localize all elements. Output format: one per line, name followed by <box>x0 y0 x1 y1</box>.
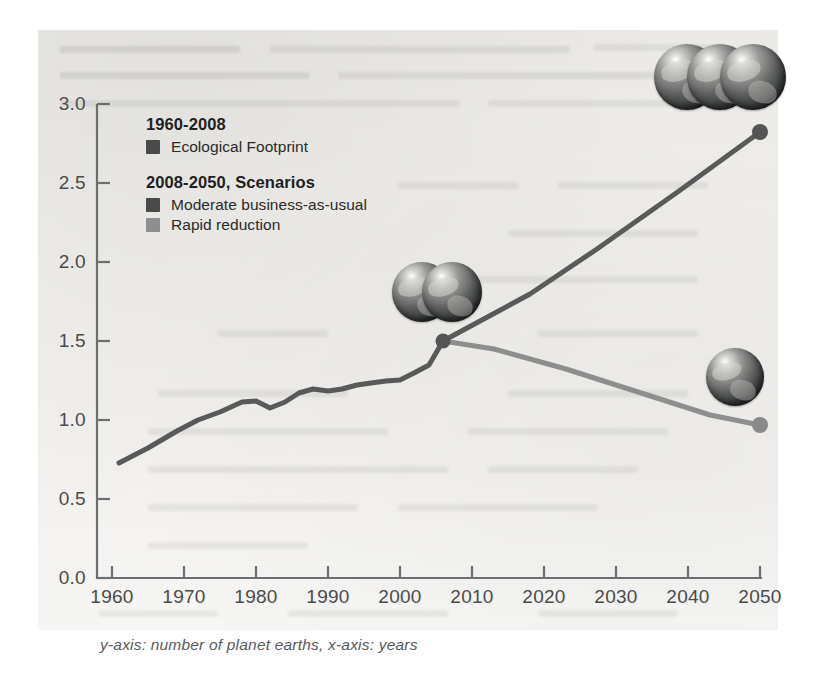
y-tick-label: 3.0 <box>30 93 86 115</box>
y-axis-ticks <box>97 104 110 578</box>
x-tick-label: 1960 <box>77 586 147 608</box>
business-as-usual-swatch <box>146 198 160 212</box>
series-line-ecological-footprint <box>119 341 443 463</box>
three-earths-globe-cluster <box>654 38 788 118</box>
endpoint-marker-rapid-reduction <box>752 417 768 433</box>
legend-item-ecological-footprint: Ecological Footprint <box>146 138 446 156</box>
chart-figure: 3.0 2.5 2.0 1.5 1.0 0.5 0.0 1960 1970 19… <box>0 0 816 682</box>
legend-item-label: Ecological Footprint <box>171 138 308 156</box>
endpoint-marker-business-as-usual <box>752 124 768 140</box>
two-earths-globe-cluster <box>392 258 488 330</box>
x-tick-label: 1970 <box>149 586 219 608</box>
x-tick-label: 2010 <box>437 586 507 608</box>
series-line-business-as-usual <box>443 132 760 341</box>
x-tick-label: 1990 <box>293 586 363 608</box>
x-tick-label: 2000 <box>365 586 435 608</box>
ecological-footprint-swatch <box>146 140 160 154</box>
legend-heading: 2008-2050, Scenarios <box>146 173 446 192</box>
globe-icon <box>422 262 482 322</box>
y-tick-label: 1.0 <box>30 409 86 431</box>
x-tick-label: 1980 <box>221 586 291 608</box>
legend-item-rapid-reduction: Rapid reduction <box>146 216 446 234</box>
legend-group-scenarios: 2008-2050, Scenarios Moderate business-a… <box>146 173 446 234</box>
one-earth-globe-cluster <box>706 348 768 410</box>
chart-caption: y-axis: number of planet earths, x-axis:… <box>100 636 418 654</box>
x-tick-label: 2040 <box>653 586 723 608</box>
rapid-reduction-swatch <box>146 218 160 232</box>
branch-point-marker-2008 <box>436 334 451 349</box>
legend-item-business-as-usual: Moderate business-as-usual <box>146 196 446 214</box>
x-tick-label: 2050 <box>725 586 795 608</box>
y-tick-label: 1.5 <box>30 330 86 352</box>
globe-icon <box>720 44 786 110</box>
x-axis-ticks <box>112 566 760 578</box>
legend-heading: 1960-2008 <box>146 115 446 134</box>
legend-group-historical: 1960-2008 Ecological Footprint <box>146 115 446 156</box>
legend-item-label: Moderate business-as-usual <box>171 196 367 214</box>
y-tick-label: 0.5 <box>30 488 86 510</box>
legend-item-label: Rapid reduction <box>171 216 280 234</box>
x-tick-label: 2030 <box>581 586 651 608</box>
y-tick-label: 2.0 <box>30 251 86 273</box>
chart-legend: 1960-2008 Ecological Footprint 2008-2050… <box>146 115 446 251</box>
globe-icon <box>706 348 764 406</box>
y-tick-label: 2.5 <box>30 172 86 194</box>
x-tick-label: 2020 <box>509 586 579 608</box>
